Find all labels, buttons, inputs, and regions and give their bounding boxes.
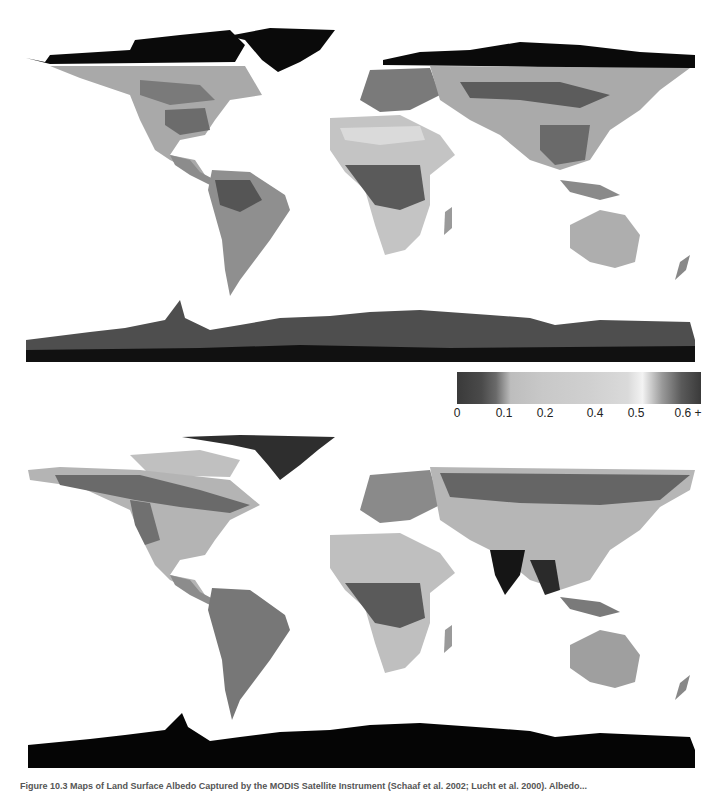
central-africa-forest [345, 583, 425, 628]
colorbar-tick: 0.2 [537, 406, 554, 420]
central-africa-forest [345, 165, 425, 210]
figure-caption: Figure 10.3 Maps of Land Surface Albedo … [20, 781, 710, 793]
south-america-region [208, 588, 290, 720]
madagascar-region [444, 625, 452, 653]
colorbar-tick: 0.1 [496, 406, 513, 420]
colorbar-tick: 0 [454, 406, 461, 420]
australia-region [570, 210, 640, 268]
australia-region [570, 630, 640, 688]
india-region [490, 550, 525, 595]
colorbar-tick: 0.5 [628, 406, 645, 420]
new-zealand-region [675, 255, 690, 280]
greenland-region [228, 28, 335, 72]
europe-region [360, 470, 440, 523]
indonesia-region [560, 180, 620, 200]
arctic-canada-region [26, 30, 245, 64]
world-map-bottom-svg [0, 425, 717, 775]
indonesia-region [560, 597, 620, 617]
europe-region [360, 68, 440, 112]
antarctica-region [28, 713, 695, 768]
albedo-colorbar [457, 372, 701, 404]
world-map-top-svg [0, 0, 717, 365]
albedo-map-top [0, 0, 717, 365]
colorbar-tick: 0.4 [587, 406, 604, 420]
northern-eurasia-region [383, 42, 695, 68]
colorbar-gradient [457, 372, 701, 404]
colorbar-tick: 0.6 + [674, 406, 701, 420]
albedo-map-bottom [0, 425, 717, 775]
madagascar-region [444, 207, 452, 235]
new-zealand-region [675, 675, 690, 700]
colorbar-tick-labels: 0 0.1 0.2 0.4 0.5 0.6 + [420, 406, 717, 422]
